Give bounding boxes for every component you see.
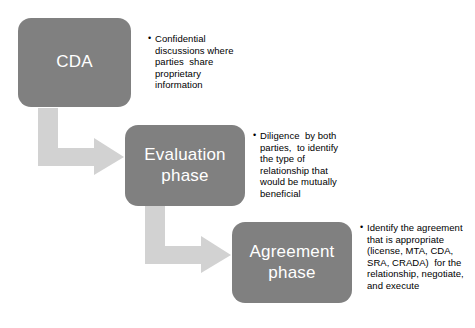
stage-box-agreement[interactable]: Agreement phase <box>232 222 352 303</box>
stage-box-agreement-label: Agreement phase <box>240 242 344 282</box>
list-item: • Identify the agreement that is appropr… <box>360 222 464 292</box>
stage-box-cda-label: CDA <box>56 52 93 72</box>
bullet-text-evaluation: Diligence by both parties, to identify t… <box>260 130 351 200</box>
bullet-dot-icon: • <box>253 130 260 142</box>
stage-box-cda[interactable]: CDA <box>18 18 131 107</box>
stage-box-evaluation-label: Evaluation phase <box>133 145 237 185</box>
list-item: • Confidential discussions where parties… <box>148 33 240 91</box>
bullets-agreement: • Identify the agreement that is appropr… <box>360 222 464 292</box>
bullet-dot-icon: • <box>360 222 367 234</box>
bullets-cda: • Confidential discussions where parties… <box>148 33 240 91</box>
stage-box-evaluation[interactable]: Evaluation phase <box>125 125 245 206</box>
elbow-arrow-icon <box>145 206 231 273</box>
bullet-text-cda: Confidential discussions where parties s… <box>155 33 240 91</box>
connector-cda-to-evaluation <box>36 108 126 176</box>
diagram-canvas: CDA • Confidential discussions where par… <box>0 0 475 328</box>
bullet-dot-icon: • <box>148 33 155 45</box>
connector-evaluation-to-agreement <box>143 206 233 274</box>
elbow-arrow-icon <box>38 108 124 175</box>
bullets-evaluation: • Diligence by both parties, to identify… <box>253 130 351 200</box>
bullet-text-agreement: Identify the agreement that is appropria… <box>367 222 464 292</box>
list-item: • Diligence by both parties, to identify… <box>253 130 351 200</box>
